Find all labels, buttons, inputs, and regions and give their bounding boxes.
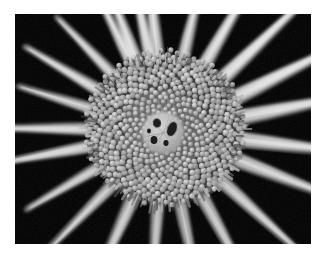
coneflower-macro-photograph (15, 14, 311, 244)
photograph-frame (15, 14, 311, 244)
film-grain-overlay (15, 14, 311, 244)
